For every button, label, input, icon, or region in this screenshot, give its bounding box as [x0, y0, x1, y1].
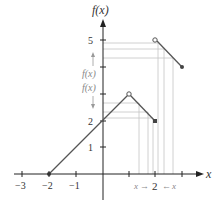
y-tick-5-label: 5 [88, 35, 93, 46]
x-axis-arrow-icon [196, 171, 204, 177]
fx-annotation-arrows [91, 52, 95, 109]
function-curve [49, 41, 182, 174]
x-axis-label: x [205, 167, 212, 181]
open-point-icon [127, 92, 131, 96]
arrow-down-icon [91, 104, 95, 109]
arrow-up-icon [91, 52, 95, 57]
fx-lower-annotation: f(x) [82, 82, 97, 94]
x-tick-neg1-label: −1 [69, 180, 80, 191]
approach-arrow-right-icon: → [140, 181, 149, 191]
limit-diagram: f(x) x 5 2 1 −3 −2 −1 2 f(x) f(x) x → ← … [0, 0, 221, 210]
x-tick-neg2-label: −2 [42, 180, 53, 191]
open-point-icon [153, 38, 157, 42]
x-approach-right-label: x [171, 181, 176, 191]
filled-point-icon [47, 172, 51, 176]
y-axis-arrow-icon [100, 19, 106, 27]
fx-upper-annotation: f(x) [82, 68, 97, 80]
x-approach-left-label: x [133, 181, 138, 191]
guide-lines [103, 43, 173, 174]
x-axis [14, 171, 204, 177]
segment-3 [157, 41, 182, 67]
filled-point-icon [153, 119, 157, 123]
y-axis [100, 19, 106, 200]
x-tick-neg3-label: −3 [15, 180, 26, 191]
y-tick-1-label: 1 [88, 142, 93, 153]
x-tick-2-label: 2 [152, 180, 158, 192]
segment-1 [49, 95, 128, 174]
diagram-canvas: f(x) x 5 2 1 −3 −2 −1 2 f(x) f(x) x → ← … [0, 0, 221, 210]
filled-point-icon [180, 65, 184, 69]
y-axis-label: f(x) [92, 3, 109, 17]
y-tick-2-label: 2 [88, 116, 93, 127]
segment-2 [130, 95, 155, 121]
approach-arrow-left-icon: ← [162, 181, 171, 191]
